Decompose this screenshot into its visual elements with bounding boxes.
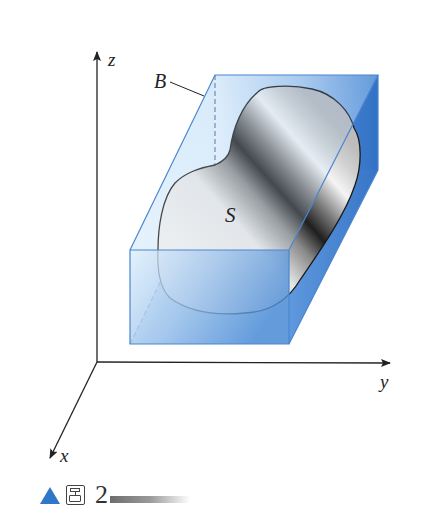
figure-number: 2: [95, 482, 108, 508]
x-axis: [50, 362, 97, 458]
triangle-icon: [40, 487, 60, 504]
surface-label: S: [225, 205, 236, 226]
x-axis-label: x: [60, 446, 68, 465]
caption-bar: [110, 496, 190, 503]
y-axis-label: y: [380, 372, 388, 391]
figure-box-surface: z y x B S 2: [0, 0, 422, 526]
figure-glyph-icon: [66, 485, 85, 505]
figure-caption: 2: [40, 480, 190, 510]
z-axis-label: z: [108, 50, 115, 69]
y-axis: [97, 362, 390, 363]
box-label: B: [154, 71, 166, 91]
box-label-leader: [170, 82, 204, 96]
box-front-face: [130, 250, 289, 344]
